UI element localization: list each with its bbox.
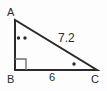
angle-a-dot-1 xyxy=(17,36,20,39)
side-label-base: 6 xyxy=(49,72,55,83)
angle-c-dot-1 xyxy=(72,62,75,65)
side-label-hypotenuse: 7.2 xyxy=(58,32,75,44)
vertex-label-c: C xyxy=(91,74,99,85)
right-angle-mark xyxy=(15,59,26,70)
vertex-label-b: B xyxy=(7,74,14,85)
triangle-shape xyxy=(15,20,97,70)
triangle-diagram: A B C 7.2 6 xyxy=(0,0,107,91)
angle-a-dot-2 xyxy=(23,36,26,39)
vertex-label-a: A xyxy=(7,7,14,18)
